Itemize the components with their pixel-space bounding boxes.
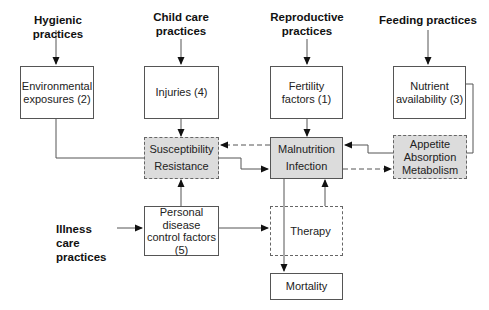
personal-line3: control factors xyxy=(147,231,216,244)
box-environmental-exposures: Environmental exposures (2) xyxy=(20,66,94,119)
fertility-line1: Fertility xyxy=(289,80,324,93)
environmental-line2: exposures (2) xyxy=(23,93,90,106)
malnutrition-framework-diagram: Hygienic practices Child care practices … xyxy=(0,0,489,310)
mortality-text: Mortality xyxy=(286,280,328,293)
box-appetite-absorption-metabolism: Appetite Absorption Metabolism xyxy=(393,135,467,179)
reproductive-line2: practices xyxy=(282,25,333,37)
nutrient-line1: Nutrient xyxy=(410,80,449,93)
box-personal-disease-control: Personal disease control factors (5) xyxy=(144,206,219,256)
label-child-care-practices: Child care practices xyxy=(140,10,222,38)
box-malnutrition-infection: Malnutrition Infection xyxy=(270,137,343,179)
label-hygienic-practices: Hygienic practices xyxy=(8,13,108,41)
label-reproductive-practices: Reproductive practices xyxy=(262,10,352,38)
box-nutrient-availability: Nutrient availability (3) xyxy=(393,66,466,119)
reproductive-line1: Reproductive xyxy=(270,11,344,23)
fertility-line2: factors (1) xyxy=(282,93,332,106)
box-therapy: Therapy xyxy=(270,206,343,256)
malnutrition-text: Malnutrition xyxy=(278,143,335,156)
label-illness-care-practices: Illness care practices xyxy=(56,222,118,264)
metabolism-text: Metabolism xyxy=(402,164,458,177)
resistance-text: Resistance xyxy=(154,160,208,173)
injuries-text: Injuries (4) xyxy=(156,86,208,99)
illness-care-line1: Illness care xyxy=(56,223,92,249)
feeding-practices-text: Feeding practices xyxy=(379,14,477,26)
hygienic-practices-text: Hygienic practices xyxy=(33,14,84,40)
infection-text: Infection xyxy=(286,160,328,173)
susceptibility-text: Susceptibility xyxy=(149,143,213,156)
box-mortality: Mortality xyxy=(270,273,343,300)
box-injuries: Injuries (4) xyxy=(144,66,219,119)
illness-care-line2: practices xyxy=(56,251,107,263)
nutrient-line2: availability (3) xyxy=(396,93,463,106)
label-feeding-practices: Feeding practices xyxy=(372,13,484,27)
box-fertility-factors: Fertility factors (1) xyxy=(270,66,343,119)
environmental-line1: Environmental xyxy=(22,80,92,93)
personal-line4: (5) xyxy=(175,244,188,257)
child-care-line2: practices xyxy=(156,25,207,37)
appetite-text: Appetite xyxy=(410,138,450,151)
therapy-text: Therapy xyxy=(289,225,331,238)
absorption-text: Absorption xyxy=(404,151,457,164)
box-susceptibility-resistance: Susceptibility Resistance xyxy=(144,137,219,179)
child-care-line1: Child care xyxy=(153,11,209,23)
personal-line1: Personal xyxy=(160,206,203,219)
personal-line2: disease xyxy=(163,219,201,232)
